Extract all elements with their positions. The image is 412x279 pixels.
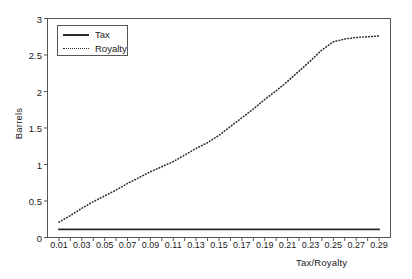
legend-line-dotted-icon [63,44,89,54]
chart-container: Barrels 00.511.522.53 0.010.030.050.070.… [0,0,412,279]
legend-entry-royalty: Royalty [58,42,127,56]
legend-line-solid-icon [63,30,89,40]
legend-label-tax: Tax [95,30,110,40]
legend-entry-tax: Tax [58,28,127,42]
chart-legend: Tax Royalty [57,25,128,56]
series-line-royalty [59,36,379,222]
legend-label-royalty: Royalty [95,44,127,54]
